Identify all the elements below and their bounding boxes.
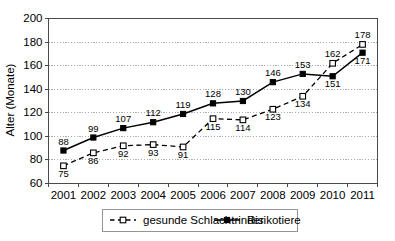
x-tick-label: 2001: [51, 189, 77, 201]
legend-marker-sample: [224, 217, 229, 222]
x-tick-label: 2006: [200, 189, 226, 201]
data-point-label: 130: [235, 86, 251, 97]
data-series: [61, 42, 366, 169]
x-tick-label: 2003: [110, 189, 136, 201]
x-tick-label: 2011: [350, 189, 375, 201]
x-tick-label: 2002: [81, 189, 107, 201]
data-point-label: 171: [355, 55, 371, 66]
data-point-marker: [151, 120, 156, 125]
data-point-label: 162: [325, 48, 341, 59]
data-point-marker: [121, 126, 126, 131]
data-point-label: 107: [115, 113, 131, 124]
data-point-label: 114: [235, 122, 250, 133]
data-point-marker: [210, 101, 215, 106]
data-point-label: 123: [265, 111, 281, 122]
data-point-marker: [91, 135, 96, 140]
y-tick-label: 120: [23, 106, 42, 118]
data-point-label: 92: [118, 148, 129, 159]
data-point-label: 93: [148, 147, 159, 158]
data-point-label: 153: [295, 59, 311, 70]
data-point-label: 112: [146, 107, 161, 118]
y-tick-label: 80: [30, 153, 43, 165]
y-tick-label: 60: [30, 177, 43, 189]
data-point-marker: [300, 71, 305, 76]
data-point-label: 91: [178, 149, 189, 160]
data-point-label: 119: [176, 99, 191, 110]
y-axis-title: Alter (Monate): [4, 63, 16, 136]
x-tick-label: 2010: [320, 189, 346, 201]
data-point-label: 146: [265, 67, 281, 78]
y-tick-label: 160: [23, 59, 42, 71]
y-tick-label: 180: [23, 36, 42, 48]
y-tick-label: 100: [23, 130, 42, 142]
x-tick-label: 2009: [290, 189, 316, 201]
x-axis-ticks: 2001200220032004200520062007200820092010…: [49, 184, 378, 201]
data-point-label: 88: [58, 136, 69, 147]
data-point-marker: [61, 148, 66, 153]
data-point-label: 134: [295, 98, 311, 109]
legend-label: Risikotiere: [247, 214, 301, 226]
x-tick-label: 2008: [260, 189, 286, 201]
y-axis-ticks: 6080100120140160180200: [23, 12, 48, 189]
x-tick-label: 2004: [140, 189, 166, 201]
chart-legend: gesunde SchlachtrinderRisikotiere: [102, 209, 301, 231]
chart-container: 6080100120140160180200 20012002200320042…: [0, 0, 395, 241]
x-tick-label: 2005: [170, 189, 196, 201]
data-point-marker: [180, 111, 185, 116]
data-point-label: 115: [205, 121, 220, 132]
x-tick-label: 2007: [230, 189, 256, 201]
line-chart: 6080100120140160180200 20012002200320042…: [0, 0, 395, 241]
data-point-label: 86: [88, 155, 99, 166]
data-point-label: 75: [58, 168, 69, 179]
data-point-marker: [240, 98, 245, 103]
data-point-marker: [360, 42, 366, 48]
legend-marker-sample: [120, 217, 126, 223]
y-tick-label: 140: [23, 83, 42, 95]
legend-label: gesunde Schlachtrinder: [143, 214, 264, 226]
data-point-label: 178: [355, 29, 371, 40]
y-tick-label: 200: [23, 12, 42, 24]
data-point-marker: [270, 80, 275, 85]
data-point-label: 151: [325, 78, 341, 89]
data-point-label: 99: [88, 123, 99, 134]
data-point-marker: [330, 60, 336, 66]
data-point-label: 128: [205, 88, 221, 99]
